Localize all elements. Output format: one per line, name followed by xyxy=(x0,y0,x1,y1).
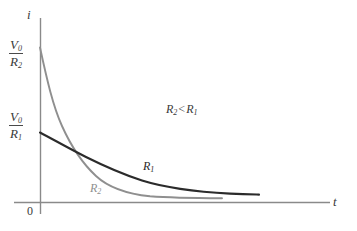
y-tick-label-v0-over-r1: V0 R1 xyxy=(9,110,23,140)
exponential-decay-figure: i t 0 V0 R2 V0 R1 R1 R2 R2<R1 xyxy=(0,0,357,231)
y-tick-numerator: V0 xyxy=(9,110,23,124)
origin-label: 0 xyxy=(27,205,33,217)
relation-annotation: R2<R1 xyxy=(166,103,197,115)
y-tick-denominator: R1 xyxy=(9,127,23,141)
curve-label-r1: R1 xyxy=(143,160,154,172)
y-tick-denominator: R2 xyxy=(9,55,23,69)
y-tick-numerator: V0 xyxy=(9,38,23,52)
y-axis-label: i xyxy=(27,8,31,21)
x-axis-label: t xyxy=(333,195,337,208)
y-tick-label-v0-over-r2: V0 R2 xyxy=(9,38,23,68)
curve-label-r2: R2 xyxy=(90,182,101,194)
inequality-operator: < xyxy=(177,102,186,116)
